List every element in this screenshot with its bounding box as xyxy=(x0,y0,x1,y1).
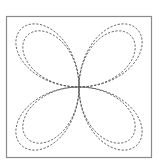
inner-rose xyxy=(23,31,135,143)
rose-curve-figure xyxy=(0,0,159,168)
